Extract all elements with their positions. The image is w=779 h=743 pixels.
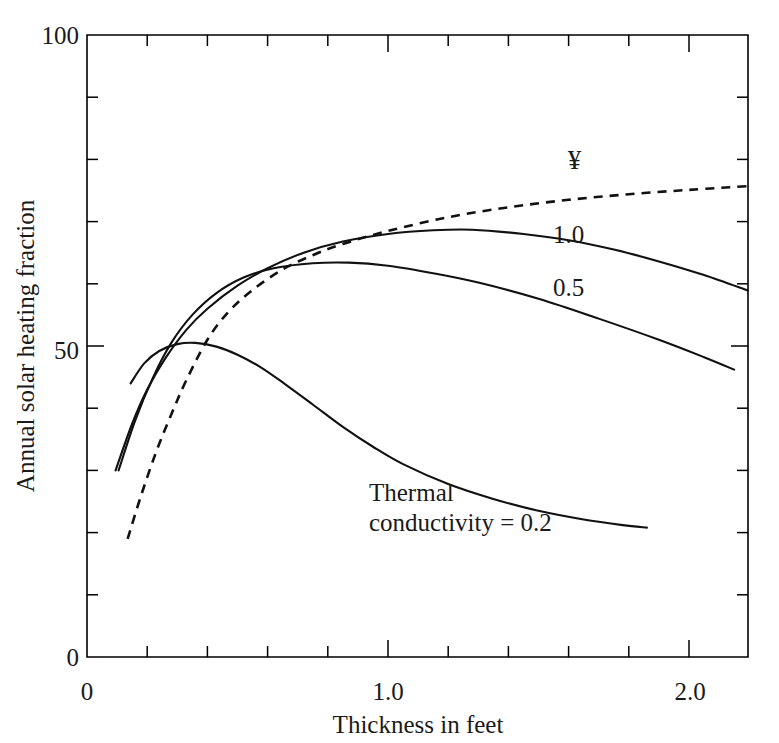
chart-canvas: 100 50 0 0 1.0 2.0 Thickness in feet Ann… [0,0,779,743]
x-tick-label-1: 1.0 [372,678,403,705]
series-label-0-2-line2: conductivity = 0.2 [369,509,552,536]
series-k1-line [116,229,748,470]
series-label-1-0: 1.0 [553,221,584,248]
y-tick-label-0: 0 [67,644,80,671]
series-k05-line [119,262,735,470]
axes-frame [87,35,748,657]
x-tick-label-0: 0 [81,678,94,705]
x-axis-title: Thickness in feet [333,711,504,738]
y-axis-ticks [87,97,104,595]
figure-container: 100 50 0 0 1.0 2.0 Thickness in feet Ann… [0,0,779,743]
y-tick-label-50: 50 [54,337,79,364]
y-tick-label-100: 100 [42,22,80,49]
top-axis-ticks [147,35,689,52]
series-label-infinity: ¥ [568,145,582,175]
right-axis-ticks [731,97,748,595]
x-axis-ticks [147,640,689,657]
series-label-0-5: 0.5 [553,274,584,301]
series-label-0-2-line1: Thermal [369,479,454,506]
y-axis-title: Annual solar heating fraction [12,199,39,492]
axis-frame-path [87,35,748,657]
x-tick-label-2: 2.0 [674,678,705,705]
